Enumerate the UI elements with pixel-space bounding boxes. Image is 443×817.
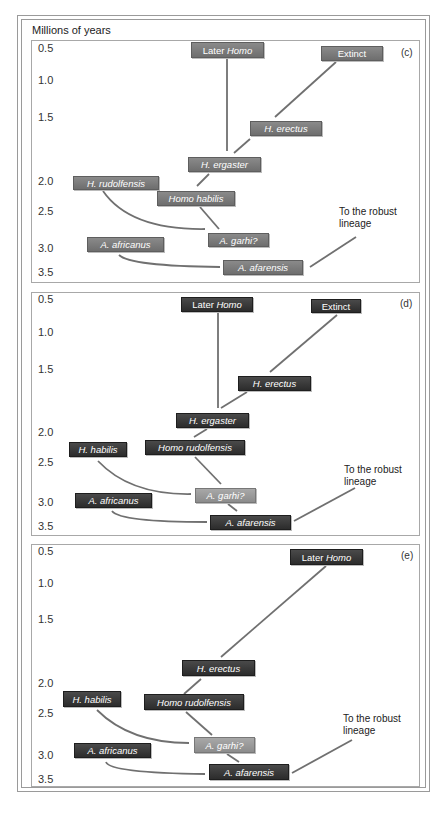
note-line: lineage [344,476,402,488]
node-label: Homo [227,45,252,56]
node-label: Homo habilis [169,193,224,204]
tick-label: 3.0 [38,242,53,254]
node-label: A. africanus [100,239,150,250]
node-a-africanus: A. africanus [74,743,151,758]
node-label: A. africanus [87,745,137,756]
node-label: H. ergaster [189,415,236,426]
node-a-garhi: A. garhi? [194,737,255,753]
node-h-erectus: H. erectus [238,376,311,391]
node-label: H. erectus [264,123,307,134]
node-h-rudolfensis: H. rudolfensis [73,176,159,190]
node-label: Homo [326,552,351,563]
tick-label: 0.5 [38,293,53,305]
node-a-garhi: A. garhi? [208,233,269,247]
node-a-garhi: A. garhi? [195,488,256,503]
node-label: Homo [216,299,241,310]
node-label: A. afarensis [224,767,274,778]
node-h-erectus: H. erectus [250,121,322,136]
node-a-africanus: A. africanus [75,493,152,508]
node-h-habilis: H. habilis [63,691,121,707]
node-label: H. habilis [72,694,111,705]
tick-label: 2.5 [38,456,53,468]
tick-label: 2.0 [38,175,53,187]
node-label: Later [203,45,225,56]
node-a-afarensis: A. afarensis [210,515,291,530]
tick-label: 0.5 [38,545,53,557]
node-label: A. garhi? [206,490,244,501]
note-line: lineage [343,725,401,737]
node-extinct: Extinct [321,46,383,61]
node-h-ergaster: H. ergaster [176,413,249,428]
node-a-afarensis: A. afarensis [209,764,289,780]
node-a-afarensis: A. afarensis [223,260,303,275]
node-later-homo: Later Homo [191,42,264,58]
tick-label: 2.0 [38,677,53,689]
node-label: A. africanus [88,495,138,506]
tick-label: 3.5 [38,773,53,785]
node-label: Later [192,299,214,310]
robust-lineage-note: To the robust lineage [339,206,397,230]
tick-label: 1.5 [38,613,53,625]
tick-label: 3.0 [38,749,53,761]
panel-label-e: (e) [401,550,413,561]
tick-label: 2.5 [38,205,53,217]
tick-label: 1.0 [38,326,53,338]
node-label: A. afarensis [225,517,275,528]
node-homo-rudolfensis: Homo rudolfensis [144,694,244,710]
tick-label: 3.5 [38,520,53,532]
note-line: To the robust [343,713,401,725]
node-homo-rudolfensis: Homo rudolfensis [145,440,245,455]
tick-label: 2.5 [38,707,53,719]
node-label: A. garhi? [205,740,243,751]
node-h-ergaster: H. ergaster [188,157,261,172]
tick-label: 0.5 [38,42,53,54]
robust-lineage-note: To the robust lineage [343,713,401,737]
node-later-homo: Later Homo [181,297,253,312]
node-label: Extinct [322,301,351,312]
note-line: To the robust [339,206,397,218]
tick-label: 1.5 [38,111,53,123]
node-label: Homo rudolfensis [158,442,232,453]
node-label: H. erectus [253,378,296,389]
panel-label-d: (d) [400,298,412,309]
tick-label: 1.0 [38,74,53,86]
tick-label: 1.0 [38,577,53,589]
node-label: Extinct [338,48,367,59]
robust-lineage-note: To the robust lineage [344,464,402,488]
node-a-africanus: A. africanus [87,237,164,252]
node-h-erectus: H. erectus [182,660,255,676]
node-label: H. erectus [197,663,240,674]
tick-label: 3.5 [38,266,53,278]
node-extinct: Extinct [311,299,361,313]
node-homo-habilis: Homo habilis [157,191,235,206]
node-label: Later [302,552,324,563]
node-later-homo: Later Homo [290,549,363,565]
tick-label: 1.5 [38,363,53,375]
node-h-habilis: H. habilis [69,442,127,457]
node-label: A. afarensis [238,262,288,273]
node-label: H. rudolfensis [87,178,145,189]
axis-title: Millions of years [32,24,111,36]
node-label: H. ergaster [201,159,248,170]
node-label: Homo rudolfensis [157,697,231,708]
node-label: A. garhi? [219,235,257,246]
node-label: H. habilis [78,444,117,455]
note-line: To the robust [344,464,402,476]
tick-label: 3.0 [38,496,53,508]
note-line: lineage [339,218,397,230]
tick-label: 2.0 [38,426,53,438]
panel-label-c: (c) [401,47,413,58]
